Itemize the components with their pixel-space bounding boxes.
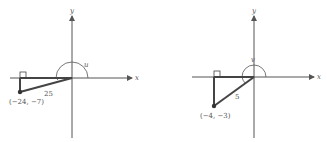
triangle-hypotenuse [214, 77, 254, 106]
point-marker [212, 104, 216, 108]
x-axis-label: x [135, 74, 139, 82]
y-axis-label: y [69, 7, 75, 15]
point-label: (−4, −3) [200, 112, 231, 120]
left-figure: x y u 25 (−24, −7) [9, 7, 139, 138]
angle-label: u [84, 61, 89, 69]
angle-label: v [251, 56, 255, 64]
hypotenuse-label: 5 [235, 93, 239, 101]
diagram-canvas: x y u 25 (−24, −7) x y v 5 (−4, −3) [0, 0, 327, 142]
x-axis-label: x [317, 73, 321, 81]
point-label: (−24, −7) [9, 98, 44, 106]
right-figure: x y v 5 (−4, −3) [192, 7, 321, 138]
y-axis-label: y [251, 7, 257, 15]
point-marker [18, 90, 22, 94]
hypotenuse-label: 25 [44, 90, 53, 98]
